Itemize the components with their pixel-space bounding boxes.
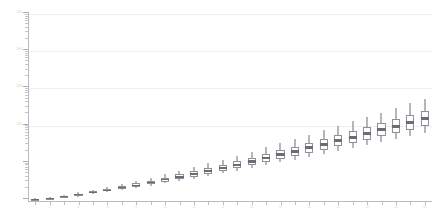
whisker-lower	[294, 156, 295, 160]
y-tick-minor	[25, 180, 28, 181]
boxplot-median	[248, 160, 256, 162]
x-tick	[223, 201, 224, 205]
x-tick-label: 2	[49, 206, 50, 209]
x-tick-label: 8	[135, 206, 136, 209]
x-tick-label: 4	[78, 206, 79, 209]
y-tick-minor	[25, 90, 28, 91]
x-tick-label: 16	[250, 206, 253, 209]
y-tick-minor	[25, 187, 28, 188]
y-tick-minor	[25, 20, 28, 21]
x-tick-label: 12	[192, 206, 195, 209]
y-tick-label: 10^2	[16, 122, 22, 125]
y-tick-minor	[25, 31, 28, 32]
boxplot-median	[377, 128, 385, 131]
y-tick-minor	[25, 172, 28, 173]
y-tick-minor	[25, 51, 28, 52]
boxplot-box-group	[187, 14, 201, 200]
x-tick	[93, 201, 94, 205]
x-tick-label: 22	[337, 206, 340, 209]
boxplot-box-group	[302, 14, 316, 200]
boxplot-box-group	[172, 14, 186, 200]
y-tick-minor	[25, 60, 28, 61]
y-tick-minor	[25, 138, 28, 139]
whisker-lower	[338, 146, 339, 151]
boxplot-box-group	[28, 14, 42, 200]
boxplot-box-group	[389, 14, 403, 200]
boxplot-box-group	[418, 14, 432, 200]
boxplot-box-group	[129, 14, 143, 200]
y-tick-major	[23, 49, 28, 50]
y-tick-minor	[25, 163, 28, 164]
x-tick	[367, 201, 368, 205]
boxplot-box-group	[201, 14, 215, 200]
y-axis-line	[28, 12, 29, 202]
y-tick-minor	[25, 150, 28, 151]
whisker-lower	[309, 153, 310, 157]
whisker-upper	[338, 126, 339, 135]
y-tick-label: 10^5	[16, 11, 22, 14]
y-tick-minor	[25, 106, 28, 107]
x-tick-label: 6	[107, 206, 108, 209]
boxplot-median	[219, 167, 227, 169]
x-tick-label: 24	[366, 206, 369, 209]
boxplot-box-group	[244, 14, 258, 200]
y-tick-minor	[25, 112, 28, 113]
whisker-lower	[92, 193, 93, 194]
boxplot-median	[175, 176, 183, 177]
whisker-lower	[165, 182, 166, 184]
whisker-upper	[280, 143, 281, 150]
x-tick	[281, 201, 282, 205]
whisker-upper	[395, 108, 396, 119]
y-tick-minor	[25, 69, 28, 70]
y-tick-major	[23, 86, 28, 87]
whisker-lower	[424, 126, 425, 132]
boxplot-median	[392, 125, 400, 128]
x-tick	[237, 201, 238, 205]
boxplot-median	[291, 150, 299, 153]
y-tick-minor	[25, 98, 28, 99]
boxplot-median	[421, 117, 429, 120]
whisker-lower	[121, 189, 122, 190]
y-tick-minor	[25, 88, 28, 89]
x-tick	[324, 201, 325, 205]
whisker-lower	[280, 159, 281, 162]
boxplot-box-group	[42, 14, 56, 200]
x-tick-label: 26	[394, 206, 397, 209]
boxplot-median	[89, 192, 97, 193]
boxplot-median	[363, 132, 371, 135]
boxplot-median	[74, 194, 82, 195]
boxplot-box-group	[143, 14, 157, 200]
y-tick-label: 10^3	[16, 85, 22, 88]
x-tick	[50, 201, 51, 205]
boxplot-box-group	[57, 14, 71, 200]
x-tick	[194, 201, 195, 205]
y-tick-minor	[25, 55, 28, 56]
boxplot-median	[60, 196, 68, 197]
boxplot-box-group	[230, 14, 244, 200]
y-tick-minor	[25, 23, 28, 24]
x-tick-label: 14	[221, 206, 224, 209]
whisker-lower	[410, 130, 411, 136]
x-tick	[136, 201, 137, 205]
y-tick-minor	[25, 164, 28, 165]
whisker-lower	[395, 133, 396, 139]
y-tick-minor	[25, 18, 28, 19]
boxplot-box-group	[86, 14, 100, 200]
whisker-lower	[251, 165, 252, 168]
whisker-lower	[367, 140, 368, 145]
boxplot-median	[349, 136, 357, 139]
whisker-lower	[352, 143, 353, 148]
y-tick-minor	[25, 135, 28, 136]
boxplot-box-group	[115, 14, 129, 200]
boxplot-box-group	[403, 14, 417, 200]
x-tick	[180, 201, 181, 205]
whisker-upper	[352, 121, 353, 131]
y-tick-label: 10^4	[16, 48, 22, 51]
whisker-upper	[367, 117, 368, 127]
y-axis-ticks: 10^510^410^310^2	[0, 12, 28, 202]
boxplot-box-group	[273, 14, 287, 200]
whisker-upper	[410, 103, 411, 115]
whisker-lower	[323, 150, 324, 154]
y-tick-minor	[25, 125, 28, 126]
whisker-lower	[107, 191, 108, 192]
